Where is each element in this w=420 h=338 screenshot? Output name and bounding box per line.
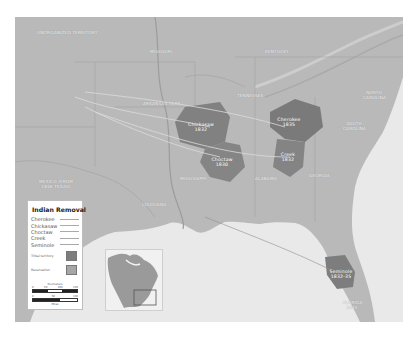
label-seminole: Seminole 1832-35 [328,269,354,280]
label-north-carolina: NORTH CAROLINA [363,91,385,101]
label-louisiana: LOUISIANA [142,203,166,208]
km-scale-bar [32,289,78,293]
legend-item-seminole: Seminole [31,242,79,248]
label-missouri: MISSOURI [150,50,172,55]
route-line-icon [60,219,79,220]
label-mississippi: MISSISSIPPI [180,177,206,182]
legend-swatch-tribal-territory: Tribal territory [31,251,79,262]
label-creek: Creek 1832 [279,152,297,163]
route-line-icon [60,244,79,245]
map-legend: Indian Removal Cherokee Chickasaw Chocta… [27,200,83,310]
label-tennessee: TENNESSEE [237,94,264,99]
scale-bar: Kilometers 0 50 100 150 0 50 100 Miles [31,282,79,306]
inset-map-shape [106,250,162,310]
reservation-swatch-icon [66,265,77,275]
label-mexico: MEXICO (from 1846 Texas) [37,180,75,190]
label-chickasaw: Chickasaw 1832 [188,122,214,133]
route-line-icon [60,231,79,232]
label-florida: FLORIDA 1845 [343,301,361,311]
label-alabama: ALABAMA [255,177,277,182]
label-kentucky: KENTUCKY [265,50,289,55]
legend-swatch-reservation: Reservation [31,265,79,276]
route-line-icon [60,238,79,239]
label-cherokee: Cherokee 1835 [276,117,302,128]
scale-mi-label: Miles [31,302,79,306]
indian-removal-map: Unorganized Territory MISSOURI KENTUCKY … [15,17,403,322]
tribal-territory-swatch-icon [66,251,77,261]
label-georgia: GEORGIA [309,174,330,179]
label-unorganized-territory: Unorganized Territory [37,31,97,36]
route-line-icon [60,225,79,226]
north-america-inset-map [105,249,163,311]
legend-title: Indian Removal [32,206,79,213]
label-choctaw: Choctaw 1830 [210,157,234,168]
label-arkansas: ARKANSAS TERR. [143,102,182,107]
label-south-carolina: SOUTH CAROLINA [343,122,365,132]
